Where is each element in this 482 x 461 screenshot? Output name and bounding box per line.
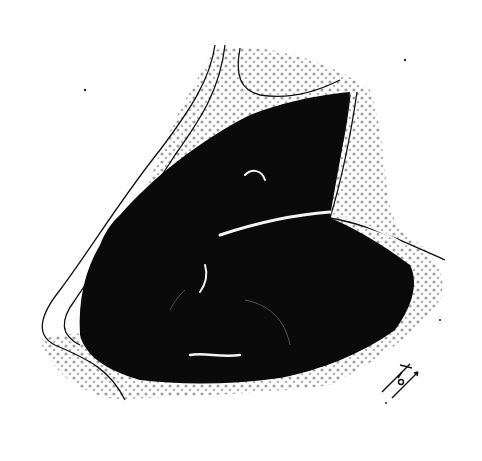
illustration-drawing — [0, 0, 482, 461]
signature-monogram — [382, 364, 418, 398]
illustration-canvas — [0, 0, 482, 461]
